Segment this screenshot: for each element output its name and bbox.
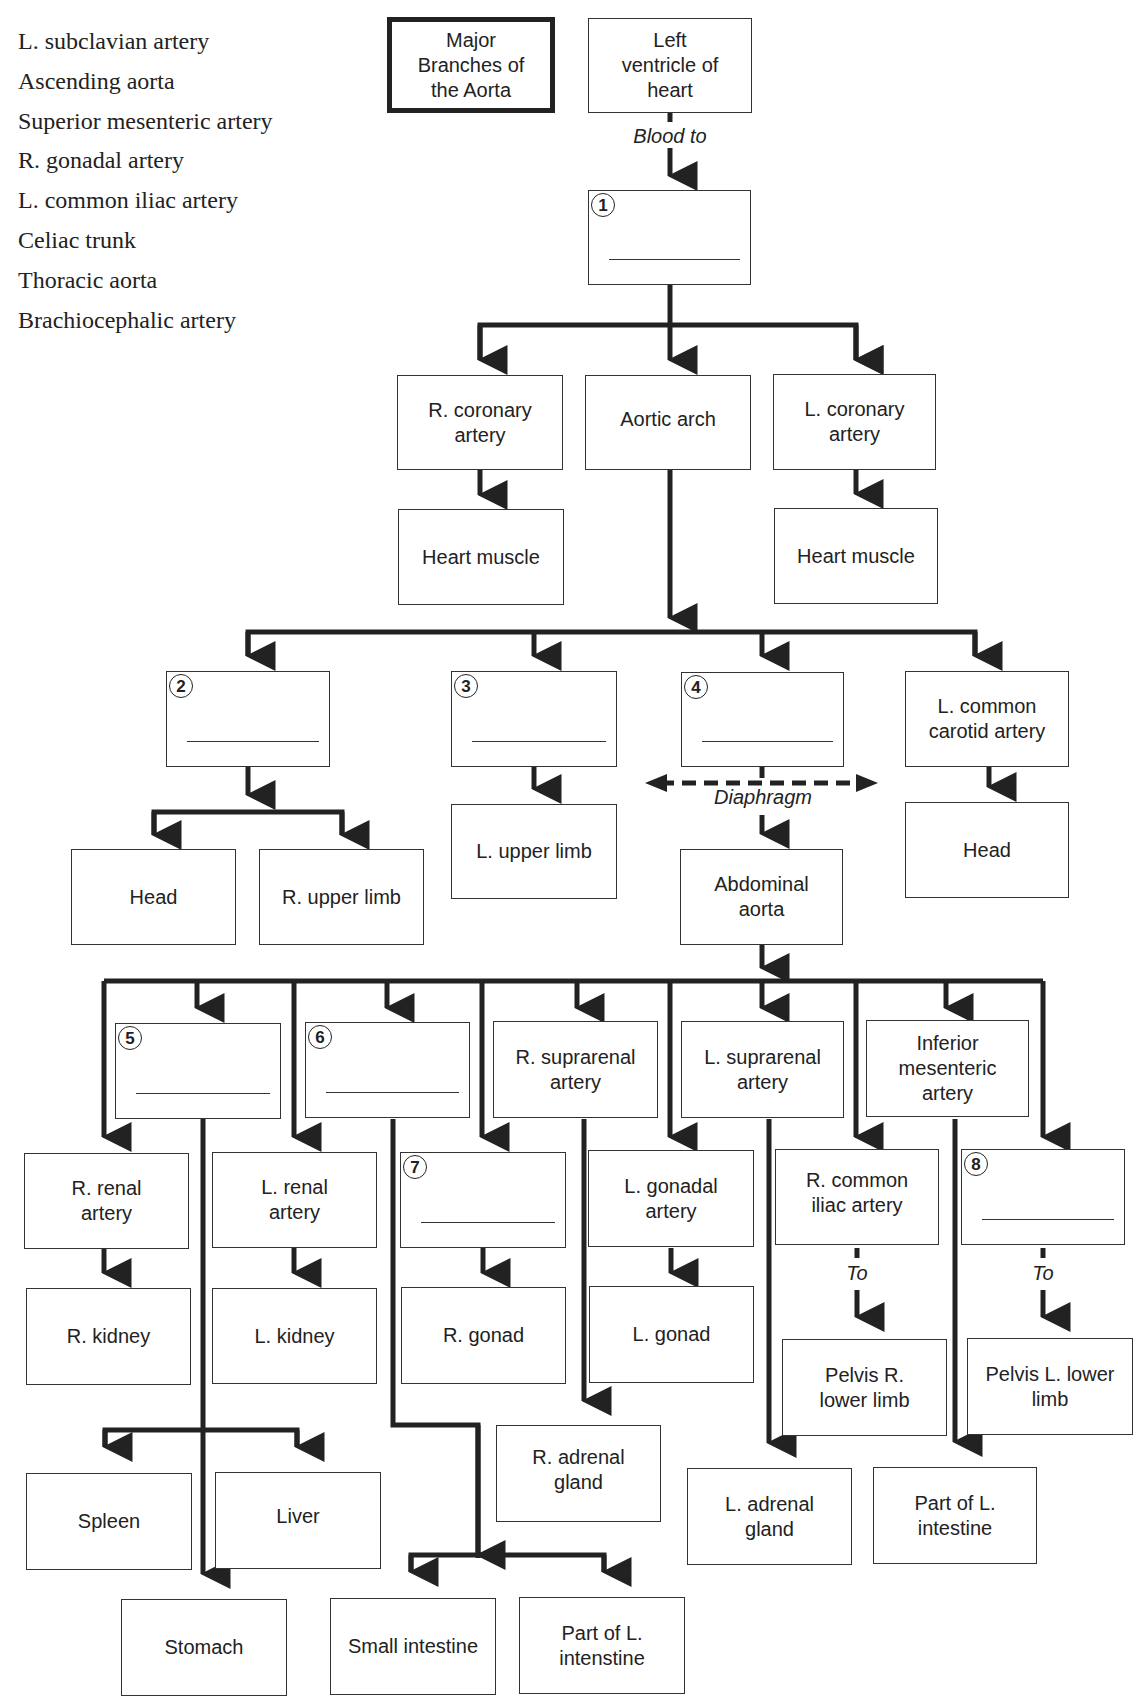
- box-heart-muscle-r: Heart muscle: [398, 509, 564, 605]
- box-text: L. coronary artery: [800, 397, 910, 447]
- box-l-renal: L. renal artery: [212, 1152, 377, 1248]
- blank-box-3[interactable]: 3: [451, 671, 617, 767]
- box-text: L. kidney: [254, 1324, 334, 1349]
- box-l-suprarenal: L. suprarenal artery: [681, 1021, 844, 1118]
- blank-box-4[interactable]: 4: [681, 672, 844, 767]
- box-text: Pelvis R. lower limb: [800, 1363, 930, 1413]
- box-text: R. gonad: [443, 1323, 524, 1348]
- box-l-upper-limb: L. upper limb: [451, 804, 617, 899]
- label-blood-to: Blood to: [631, 125, 708, 148]
- box-text: L. gonadal artery: [616, 1174, 726, 1224]
- box-pelvis-l-lower-limb: Pelvis L. lower limb: [967, 1338, 1133, 1435]
- number-badge: 7: [403, 1155, 427, 1179]
- box-text: Spleen: [78, 1509, 140, 1534]
- answer-line: [472, 741, 606, 742]
- number-badge: 5: [118, 1026, 142, 1050]
- number-badge: 1: [591, 193, 615, 217]
- number-badge: 2: [169, 674, 193, 698]
- box-r-gonad: R. gonad: [401, 1287, 566, 1384]
- number-badge: 6: [308, 1025, 332, 1049]
- box-small-intestine: Small intestine: [330, 1598, 496, 1695]
- box-head-left-side: Head: [905, 802, 1069, 898]
- title-text: Major Branches of the Aorta: [406, 28, 536, 103]
- box-r-renal: R. renal artery: [24, 1153, 189, 1249]
- box-l-kidney: L. kidney: [212, 1288, 377, 1384]
- box-text: Aortic arch: [620, 407, 716, 432]
- box-l-adrenal-gland: L. adrenal gland: [687, 1468, 852, 1565]
- blank-box-2[interactable]: 2: [166, 671, 330, 767]
- box-text: Part of L. intenstine: [542, 1621, 662, 1671]
- answer-line: [187, 741, 319, 742]
- answer-line: [326, 1092, 459, 1093]
- box-text: R. common iliac artery: [802, 1168, 912, 1218]
- box-l-gonadal: L. gonadal artery: [588, 1150, 754, 1247]
- box-text: Stomach: [165, 1635, 244, 1660]
- box-aortic-arch: Aortic arch: [585, 375, 751, 470]
- diagram-title: Major Branches of the Aorta: [387, 17, 555, 113]
- box-text: Head: [130, 885, 178, 910]
- blank-box-7[interactable]: 7: [400, 1152, 566, 1248]
- label-diaphragm: Diaphragm: [712, 786, 814, 809]
- box-inferior-mesenteric: Inferior mesenteric artery: [866, 1020, 1029, 1117]
- box-text: R. upper limb: [282, 885, 401, 910]
- box-text: Left ventricle of heart: [615, 28, 725, 103]
- box-stomach: Stomach: [121, 1599, 287, 1696]
- box-l-coronary: L. coronary artery: [773, 374, 936, 470]
- box-text: L. suprarenal artery: [698, 1045, 828, 1095]
- number-badge: 8: [964, 1152, 988, 1176]
- box-text: Small intestine: [348, 1634, 478, 1659]
- box-r-suprarenal: R. suprarenal artery: [493, 1021, 658, 1118]
- box-text: R. coronary artery: [420, 398, 540, 448]
- box-text: R. kidney: [67, 1324, 150, 1349]
- box-text: Heart muscle: [797, 544, 915, 569]
- box-text: R. renal artery: [62, 1176, 152, 1226]
- box-text: L. gonad: [633, 1322, 711, 1347]
- box-text: R. adrenal gland: [529, 1445, 629, 1495]
- box-text: Pelvis L. lower limb: [985, 1362, 1115, 1412]
- box-text: L. upper limb: [476, 839, 592, 864]
- box-r-coronary: R. coronary artery: [397, 375, 563, 470]
- answer-line: [982, 1219, 1114, 1220]
- number-badge: 3: [454, 674, 478, 698]
- number-badge: 4: [684, 675, 708, 699]
- box-pelvis-r-lower-limb: Pelvis R. lower limb: [782, 1339, 947, 1436]
- blank-box-1[interactable]: 1: [588, 190, 751, 285]
- answer-line: [609, 259, 740, 260]
- box-text: Heart muscle: [422, 545, 540, 570]
- box-text: L. common carotid artery: [922, 694, 1052, 744]
- blank-box-5[interactable]: 5: [115, 1023, 281, 1119]
- box-abdominal-aorta: Abdominal aorta: [680, 849, 843, 945]
- box-text: R. suprarenal artery: [511, 1045, 641, 1095]
- box-r-common-iliac: R. common iliac artery: [775, 1149, 939, 1245]
- box-text: Liver: [276, 1504, 319, 1529]
- box-r-upper-limb: R. upper limb: [259, 849, 424, 945]
- box-l-gonad: L. gonad: [589, 1286, 754, 1383]
- box-text: L. adrenal gland: [720, 1492, 820, 1542]
- box-text: L. renal artery: [250, 1175, 340, 1225]
- box-left-ventricle: Left ventricle of heart: [588, 18, 752, 113]
- box-l-common-carotid: L. common carotid artery: [905, 671, 1069, 767]
- answer-line: [421, 1222, 555, 1223]
- box-head-right-side: Head: [71, 849, 236, 945]
- label-to-left: To: [1030, 1262, 1056, 1285]
- box-text: Head: [963, 838, 1011, 863]
- box-heart-muscle-l: Heart muscle: [774, 508, 938, 604]
- box-liver: Liver: [215, 1472, 381, 1569]
- blank-box-6[interactable]: 6: [305, 1022, 470, 1118]
- box-spleen: Spleen: [26, 1473, 192, 1570]
- box-text: Part of L. intestine: [905, 1491, 1005, 1541]
- answer-line: [702, 741, 833, 742]
- label-to-right: To: [844, 1262, 870, 1285]
- box-text: Abdominal aorta: [712, 872, 812, 922]
- blank-box-8[interactable]: 8: [961, 1149, 1125, 1245]
- box-part-of-l-intestine: Part of L. intestine: [873, 1467, 1037, 1564]
- answer-line: [136, 1093, 270, 1094]
- box-text: Inferior mesenteric artery: [893, 1031, 1003, 1106]
- box-r-adrenal-gland: R. adrenal gland: [496, 1425, 661, 1522]
- box-r-kidney: R. kidney: [26, 1288, 191, 1385]
- box-part-of-l-intenstine: Part of L. intenstine: [519, 1597, 685, 1694]
